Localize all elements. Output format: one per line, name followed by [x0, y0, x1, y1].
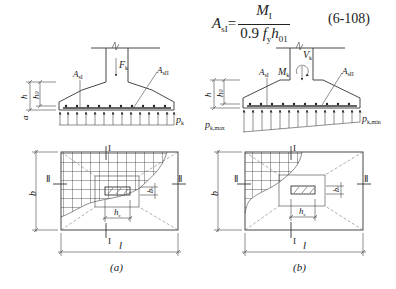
leader-asII-b: [322, 73, 342, 105]
dim-b-b: [214, 150, 242, 232]
dim-b-a: [32, 150, 58, 232]
footing-left-edge-b: [243, 48, 290, 108]
footing-right-edge-a: [128, 48, 174, 110]
dim-b-label-b: b: [209, 191, 220, 196]
dim-hc-label-b: hc: [299, 206, 307, 217]
break-symbol-b: [296, 42, 303, 50]
rebar-dots-b: [249, 103, 350, 105]
elevation-b: Vk Mk AsI AsII pk,max pk,min h h0: [203, 42, 381, 132]
rebar-right-label-b: AsII: [341, 66, 354, 77]
dim-a-a: a: [20, 115, 30, 120]
break-symbol-a: [112, 42, 119, 50]
plan-b: bc hc b l I I Ⅱ Ⅱ (b): [209, 143, 371, 274]
footing-right-edge-b: [313, 48, 360, 108]
dim-h0-a: h0: [31, 92, 41, 100]
elevation-a: Fk AsI AsII pk h h0 a: [19, 42, 184, 126]
dim-hc-label-a: hc: [114, 207, 122, 218]
moment-label-b: Mk: [277, 66, 289, 78]
caption-b: (b): [293, 261, 306, 274]
pressure-max-label-b: pk,max: [204, 119, 225, 131]
dim-h-b: h: [203, 92, 213, 97]
dim-h0-b: h0: [215, 90, 225, 98]
pressure-arrows-b: [244, 110, 360, 132]
section-I-top-b: I: [293, 143, 296, 153]
dim-l-label-a: l: [119, 239, 122, 251]
section-I-bottom-b: I: [293, 236, 296, 246]
rebar-right-label-a: AsII: [156, 65, 169, 76]
rebar-left-label-b: AsI: [258, 67, 269, 78]
pressure-min-label-b: pk,min: [361, 113, 381, 125]
pressure-trapezoid-b: [243, 122, 360, 132]
section-I-top-a: I: [108, 143, 111, 153]
dim-h-a: h: [19, 94, 29, 99]
column-core-b: [291, 186, 315, 194]
figure-root: AsI=MI0.9 fyh01 (6-108): [0, 0, 396, 289]
leader-asII-a: [134, 72, 157, 107]
dim-b-label-a: b: [27, 191, 38, 196]
column-hatch-b: [294, 187, 314, 193]
pressure-label-a: pk: [175, 114, 184, 126]
caption-a: (a): [110, 261, 123, 274]
pressure-arrows-a: [60, 112, 174, 125]
rebar-left-label-a: AsI: [72, 69, 83, 80]
column-outline-b: [279, 175, 325, 206]
section-II-left-a: Ⅱ: [46, 174, 50, 184]
plan-a: bc hc b l I I Ⅱ: [27, 143, 186, 274]
section-II-left-b: Ⅱ: [234, 174, 238, 184]
section-II-right-b: Ⅱ: [364, 174, 368, 184]
diagram-svg: Fk AsI AsII pk h h0 a: [0, 0, 396, 289]
section-II-right-a: Ⅱ: [178, 174, 182, 184]
dim-l-label-b: l: [303, 239, 306, 251]
load-label-a: Fk: [118, 59, 128, 71]
vertical-load-label-b: Vk: [303, 49, 312, 61]
section-I-bottom-a: I: [108, 236, 111, 246]
moment-arrow-b: [296, 65, 308, 76]
